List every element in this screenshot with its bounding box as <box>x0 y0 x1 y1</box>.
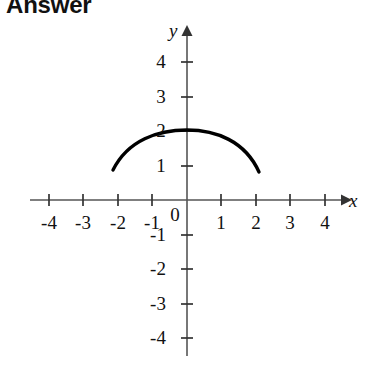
x-tick-label-3: 3 <box>280 212 300 234</box>
figure-canvas: Answer <box>0 0 371 375</box>
y-tick-label-3: 3 <box>150 86 172 108</box>
y-axis-arrowhead <box>182 25 193 36</box>
origin-tick-label: 0 <box>166 204 184 226</box>
x-tick-label-1: 1 <box>211 212 231 234</box>
y-tick-label--2: -2 <box>143 258 173 280</box>
y-tick-label--4: -4 <box>143 327 173 349</box>
x-tick-label--4: -4 <box>34 212 64 234</box>
y-axis-label: y <box>169 20 177 42</box>
x-tick-label--2: -2 <box>103 212 133 234</box>
y-tick-label-2: 2 <box>150 120 172 142</box>
x-axis-label: x <box>349 190 357 212</box>
y-tick-label--3: -3 <box>143 293 173 315</box>
y-tick-label-4: 4 <box>150 51 172 73</box>
x-tick-label-4: 4 <box>315 212 335 234</box>
x-tick-label--3: -3 <box>68 212 98 234</box>
x-tick-label-2: 2 <box>246 212 266 234</box>
y-tick-label-1: 1 <box>150 155 172 177</box>
coordinate-plane-graph <box>0 0 371 375</box>
y-tick-label--1: -1 <box>143 224 173 246</box>
